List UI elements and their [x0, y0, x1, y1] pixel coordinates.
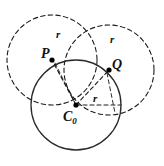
point-label-C0-subscript: 0	[72, 116, 77, 126]
radius-segment-Q-down	[107, 73, 115, 113]
point-marker-C0	[73, 102, 78, 107]
point-label-C0-base: C	[63, 109, 72, 124]
radius-label-horizontal: r	[93, 93, 97, 104]
point-label-C0: C0	[63, 110, 77, 124]
radius-label-right: r	[110, 34, 114, 45]
point-label-Q: Q	[112, 58, 122, 72]
geometry-figure: P Q C0 r r r	[0, 0, 164, 166]
point-marker-P	[49, 57, 54, 62]
geometry-canvas	[0, 0, 164, 166]
point-label-P: P	[41, 47, 50, 61]
point-marker-Q	[106, 67, 111, 72]
radius-label-left: r	[56, 29, 60, 40]
